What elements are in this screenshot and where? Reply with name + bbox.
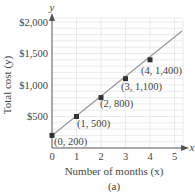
y-tick-label: $500: [27, 111, 48, 122]
data-point: [148, 57, 153, 62]
x-tick-label: 5: [172, 151, 177, 162]
point-label: (4, 1,400): [141, 65, 183, 77]
y-axis-letter: y: [49, 1, 55, 13]
data-line: [52, 31, 182, 135]
figure-caption: (a): [108, 180, 121, 193]
point-label: (0, 200): [54, 136, 88, 148]
line-chart: x y $2,000 $1,500 $1,000 $500 0 1 2 3 4 …: [0, 0, 195, 195]
point-label: (1, 500): [77, 118, 111, 130]
x-tick-label: 1: [74, 151, 79, 162]
x-tick-label: 2: [98, 151, 103, 162]
y-tick-label: $2,000: [19, 17, 48, 28]
point-label: (2, 800): [100, 98, 134, 110]
x-tick-label: 4: [147, 151, 153, 162]
y-axis-arrow-icon: [49, 13, 55, 21]
point-label: (3, 1,100): [121, 81, 163, 93]
y-tick-label: $1,000: [19, 80, 48, 91]
x-axis-letter: x: [189, 141, 195, 153]
x-axis-arrow-icon: [181, 145, 189, 151]
x-tick-label: 0: [49, 151, 54, 162]
y-axis-title: Total cost (y): [1, 55, 14, 114]
y-tick-label: $1,500: [19, 48, 48, 59]
x-axis-title: Number of months (x): [65, 165, 164, 178]
x-tick-label: 3: [123, 151, 128, 162]
